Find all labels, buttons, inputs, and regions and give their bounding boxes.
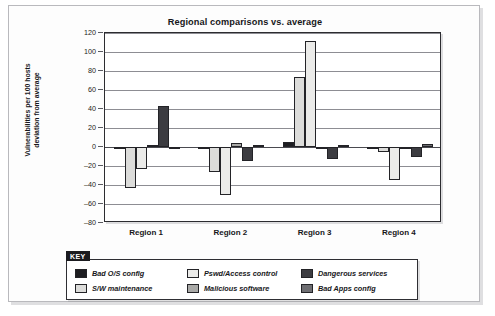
bar — [158, 106, 169, 147]
y-axis-tick-label: 120 — [70, 28, 96, 37]
gridline — [105, 52, 440, 53]
gridline — [105, 33, 440, 34]
bar — [209, 147, 220, 172]
plot-area — [104, 32, 441, 222]
bar — [242, 147, 253, 161]
y-axis-tick-label: –60 — [70, 199, 96, 208]
y-axis-tick-mark — [98, 146, 103, 147]
bar — [136, 147, 147, 169]
bar — [367, 147, 378, 149]
gridline — [105, 109, 440, 110]
y-axis-title: Vulnerabilities per 100 hosts deviation … — [23, 35, 41, 185]
x-axis-label-region-3: Region 3 — [270, 228, 360, 237]
legend-grid: Bad O/S configPswd/Access controlDangero… — [75, 266, 413, 296]
bar — [114, 147, 125, 149]
bar — [125, 147, 136, 188]
legend-label: Bad Apps config — [318, 284, 376, 293]
y-axis-tick-mark — [98, 184, 103, 185]
y-axis-tick-mark — [98, 32, 103, 33]
legend-box: Bad O/S configPswd/Access controlDangero… — [66, 259, 418, 300]
legend-swatch-icon — [187, 269, 199, 278]
y-axis-tick-label: –20 — [70, 161, 96, 170]
bar — [338, 145, 349, 147]
bar — [220, 147, 231, 195]
y-axis-tick-label: 40 — [70, 104, 96, 113]
bar — [231, 143, 242, 147]
x-axis-label-region-2: Region 2 — [185, 228, 275, 237]
y-axis-tick-mark — [98, 222, 103, 223]
y-axis-tick-mark — [98, 203, 103, 204]
bar — [316, 147, 327, 149]
bar — [169, 147, 180, 149]
legend-title-tab: KEY — [66, 251, 90, 261]
x-axis-label-region-1: Region 1 — [101, 228, 191, 237]
y-axis-tick-label: 60 — [70, 85, 96, 94]
bar — [422, 144, 433, 147]
bar — [400, 147, 411, 149]
bar — [147, 145, 158, 147]
y-axis-tick-mark — [98, 70, 103, 71]
x-axis-label-region-4: Region 4 — [354, 228, 444, 237]
bar — [389, 147, 400, 180]
y-axis-tick-label: 0 — [70, 142, 96, 151]
y-axis-tick-label: 80 — [70, 66, 96, 75]
y-axis-tick-label: –40 — [70, 180, 96, 189]
legend-label: Dangerous services — [318, 269, 387, 278]
gridline — [105, 71, 440, 72]
legend-item[interactable]: Bad O/S config — [75, 269, 187, 278]
legend-swatch-icon — [187, 284, 199, 293]
chart-title: Regional comparisons vs. average — [9, 17, 481, 27]
legend-label: Pswd/Access control — [204, 269, 277, 278]
legend-item[interactable]: Pswd/Access control — [187, 269, 301, 278]
y-axis-tick-label: 20 — [70, 123, 96, 132]
gridline — [105, 204, 440, 205]
legend-swatch-icon — [301, 269, 313, 278]
bar — [305, 41, 316, 147]
bar — [198, 147, 209, 149]
y-axis-tick-mark — [98, 108, 103, 109]
y-axis-tick-mark — [98, 127, 103, 128]
bar — [283, 142, 294, 147]
y-axis-tick-mark — [98, 165, 103, 166]
bar — [294, 77, 305, 147]
legend-label: S/W maintenance — [92, 284, 152, 293]
legend-swatch-icon — [75, 269, 87, 278]
legend-swatch-icon — [301, 284, 313, 293]
y-axis-tick-mark — [98, 51, 103, 52]
y-axis-tick-label: 100 — [70, 47, 96, 56]
legend-swatch-icon — [75, 284, 87, 293]
gridline — [105, 90, 440, 91]
bar — [378, 147, 389, 152]
bar — [327, 147, 338, 159]
chart-figure: Regional comparisons vs. average Vulnera… — [8, 5, 480, 302]
legend-item[interactable]: Dangerous services — [301, 269, 413, 278]
bar — [411, 147, 422, 157]
legend-item[interactable]: S/W maintenance — [75, 284, 187, 293]
y-axis-tick-mark — [98, 89, 103, 90]
legend-label: Malicious software — [204, 284, 269, 293]
legend-item[interactable]: Bad Apps config — [301, 284, 413, 293]
gridline — [105, 128, 440, 129]
gridline — [105, 185, 440, 186]
legend-label: Bad O/S config — [92, 269, 144, 278]
legend-item[interactable]: Malicious software — [187, 284, 301, 293]
y-axis-tick-label: –80 — [70, 218, 96, 227]
bar — [253, 145, 264, 147]
